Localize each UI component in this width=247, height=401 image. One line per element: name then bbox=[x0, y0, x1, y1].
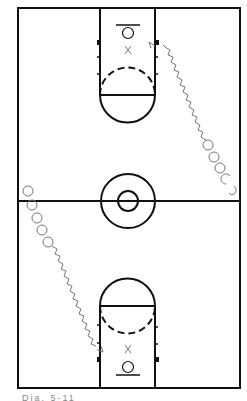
diagram-caption: Dia. 5-11 bbox=[22, 393, 76, 401]
x-marker-top bbox=[125, 46, 131, 54]
player-circle bbox=[215, 163, 225, 173]
bottom-key bbox=[97, 279, 159, 388]
x-marker-bottom bbox=[125, 345, 131, 353]
dribble-path-bottom bbox=[52, 246, 96, 346]
player-circle bbox=[203, 140, 213, 150]
basketball-court-diagram bbox=[0, 0, 247, 401]
bottom-free-throw-circle-dashed bbox=[100, 306, 155, 334]
dribble-path-top bbox=[163, 45, 206, 140]
players-bottom-left bbox=[23, 186, 53, 247]
players-top-right bbox=[203, 140, 236, 195]
player-circle-partial bbox=[229, 186, 236, 195]
player-circle bbox=[43, 237, 53, 247]
player-circle bbox=[32, 213, 42, 223]
court-lines bbox=[18, 8, 240, 388]
player-circle bbox=[23, 186, 33, 196]
player-circle bbox=[209, 152, 219, 162]
player-circle bbox=[37, 225, 47, 235]
court-boundary bbox=[18, 8, 240, 388]
top-hoop bbox=[123, 28, 134, 39]
bottom-hoop bbox=[123, 362, 134, 373]
top-free-throw-circle-solid bbox=[100, 95, 155, 123]
top-key bbox=[97, 8, 159, 123]
top-free-throw-circle-dashed bbox=[100, 68, 155, 96]
player-circle-partial bbox=[221, 174, 230, 184]
bottom-free-throw-circle-solid bbox=[100, 279, 155, 306]
